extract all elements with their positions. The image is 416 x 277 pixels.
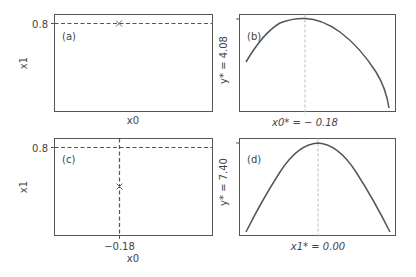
x-axis-label: x0 bbox=[127, 253, 139, 264]
x-axis-label: x1* = 0.00 bbox=[290, 241, 345, 252]
panel-tag: (b) bbox=[247, 31, 261, 42]
panel-d: (d) x1* = 0.00 y* = 7.40 bbox=[218, 139, 396, 253]
xtick-label: −0.18 bbox=[104, 241, 135, 252]
response-curve bbox=[246, 18, 389, 108]
panel-a: 0.8 (a) x0 x1 bbox=[18, 15, 213, 127]
y-axis-label: y* = 4.08 bbox=[218, 36, 229, 84]
y-axis-label: y* = 7.40 bbox=[218, 158, 229, 206]
figure: 0.8 (a) x0 x1 (b) x0* = − 0.18 y* = 4.08… bbox=[0, 0, 416, 277]
ytick-label: 0.8 bbox=[32, 143, 48, 154]
panel-b: (b) x0* = − 0.18 y* = 4.08 bbox=[218, 15, 396, 129]
y-axis-label: x1 bbox=[18, 57, 29, 69]
panel-tag: (a) bbox=[62, 31, 76, 42]
axes-frame bbox=[240, 15, 396, 112]
panel-c: 0.8 −0.18 (c) x0 x1 bbox=[18, 139, 213, 265]
axes-frame bbox=[55, 15, 213, 112]
x-axis-label: x0* = − 0.18 bbox=[271, 117, 338, 128]
panel-tag: (c) bbox=[62, 154, 75, 165]
y-axis-label: x1 bbox=[18, 181, 29, 193]
panel-tag: (d) bbox=[247, 154, 261, 165]
ytick-label: 0.8 bbox=[32, 19, 48, 30]
x-axis-label: x0 bbox=[127, 115, 139, 126]
axes-frame bbox=[55, 139, 213, 236]
